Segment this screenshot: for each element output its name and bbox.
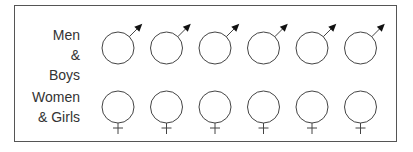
male-symbol-icon (345, 24, 385, 64)
male-symbol-icon (296, 24, 336, 64)
male-symbol-icon (102, 24, 142, 64)
female-symbol-icon (248, 91, 280, 134)
male-symbol-icon (248, 24, 288, 64)
female-symbol-icon (296, 91, 328, 134)
male-symbol-icon (151, 24, 191, 64)
female-symbol-icon (102, 91, 134, 134)
symbols-layer (0, 0, 413, 152)
female-symbol-icon (345, 91, 377, 134)
male-symbol-icon (199, 24, 239, 64)
female-symbol-icon (151, 91, 183, 134)
female-symbol-icon (199, 91, 231, 134)
